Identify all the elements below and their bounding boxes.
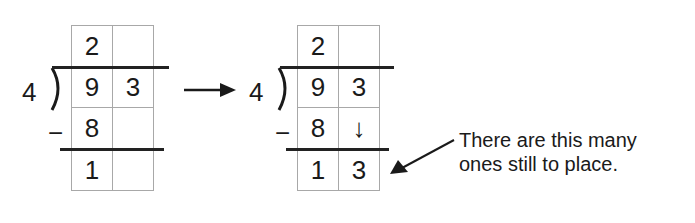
subtraction-line: [60, 148, 164, 151]
division-bar: [52, 66, 169, 69]
divisor-after: 4: [249, 79, 263, 105]
right-arrow-icon: [184, 82, 236, 98]
dividend-tens: 9: [71, 66, 113, 108]
minus-sign-after: −: [275, 120, 290, 146]
division-bar: [280, 66, 394, 69]
subtrahend-tens: 8: [297, 107, 339, 149]
pointer-arrow-icon: [388, 138, 456, 176]
quotient-tens: 2: [297, 25, 339, 67]
quotient-ones: [112, 25, 154, 67]
remainder-tens: 1: [71, 149, 113, 191]
bring-down-arrow-icon: ↓: [338, 107, 380, 149]
annotation-line-1: There are this many: [459, 128, 637, 152]
quotient-ones: [338, 25, 380, 67]
divisor-before: 4: [22, 79, 36, 105]
remainder-tens: 1: [297, 149, 339, 191]
remainder-ones: 3: [338, 149, 380, 191]
remainder-ones: [112, 149, 154, 191]
dividend-ones: 3: [112, 66, 154, 108]
quotient-tens: 2: [71, 25, 113, 67]
subtrahend-tens: 8: [71, 107, 113, 149]
minus-sign-before: −: [48, 120, 63, 146]
dividend-ones: 3: [338, 66, 380, 108]
division-bracket-icon: [275, 66, 295, 112]
subtrahend-ones: [112, 107, 154, 149]
subtraction-line: [286, 148, 389, 151]
annotation-line-2: ones still to place.: [459, 152, 637, 176]
annotation-text: There are this many ones still to place.: [459, 128, 637, 176]
dividend-tens: 9: [297, 66, 339, 108]
division-bracket-icon: [48, 66, 68, 112]
